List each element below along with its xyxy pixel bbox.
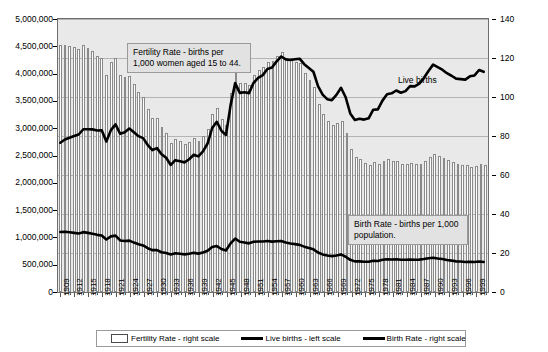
x-axis-tick-label: 1993 [451,278,459,296]
right-axis-tickmark [492,97,496,98]
annotation-fertility-rate: Fertility Rate - births per 1,000 women … [127,43,251,73]
left-axis-tick-label: 2,500,000 [15,151,53,160]
x-axis-tick-label: 1987 [423,278,431,296]
right-axis-tickmark [492,136,496,137]
x-axis-tick-label: 1909 [63,278,71,296]
right-axis-tickmark [492,214,496,215]
left-axis-tick-label: 3,000,000 [15,124,53,133]
left-axis-tick-label: 4,500,000 [15,42,53,51]
left-axis-tick-label: 2,000,000 [15,178,53,187]
right-axis-tick-label: 140 [500,15,514,24]
right-axis-tickmark [492,58,496,59]
x-axis-tick-label: 1930 [160,278,168,296]
x-axis-tick-label: 1945 [229,278,237,296]
x-axis-tick-label: 1939 [201,278,209,296]
x-axis-tick-label: 1972 [354,278,362,296]
legend-label: Fertility Rate - right scale [131,334,219,343]
x-axis-tick-label: 1969 [340,278,348,296]
legend-item-live-births: Live births - left scale [241,334,340,343]
right-axis-tick-label: 20 [500,249,509,258]
x-axis-tick-label: 1966 [326,278,334,296]
legend-item-fertility-rate: Fertility Rate - right scale [111,334,219,343]
x-axis-tick-label: 1957 [284,278,292,296]
left-axis-tick-label: 500,000 [22,260,53,269]
line-series-layer [58,19,488,292]
x-axis-tick-label: 1990 [437,278,445,296]
legend-label: Live births - left scale [265,334,340,343]
right-axis-tick-label: 100 [500,93,514,102]
x-axis-tick-label: 1921 [118,278,126,296]
x-axis-tick-label: 1978 [382,278,390,296]
left-axis-tick-label: 4,000,000 [15,69,53,78]
x-axis-tick-label: 1951 [257,278,265,296]
x-axis-tick-label: 1999 [479,278,487,296]
right-axis-tickmark [492,253,496,254]
right-axis-tick-label: 40 [500,210,509,219]
left-axis-tick-label: 5,000,000 [15,15,53,24]
right-axis-tick-label: 120 [500,54,514,63]
x-axis-tick-label: 1918 [104,278,112,296]
right-axis-tick-label: 60 [500,171,509,180]
x-axis-tick-label: 1924 [132,278,140,296]
legend-item-birth-rate: Birth Rate - right scale [363,334,466,343]
right-axis-tick-label: 0 [500,288,505,297]
x-axis-tick-label: 1933 [173,278,181,296]
x-axis-tick-label: 1927 [146,278,154,296]
left-axis-tick-label: 3,500,000 [15,96,53,105]
right-axis-tickmark [492,19,496,20]
legend-label: Birth Rate - right scale [387,334,466,343]
x-axis-tick-label: 1948 [243,278,251,296]
x-axis-tick-label: 1942 [215,278,223,296]
right-axis-tickmark [492,175,496,176]
plot-area [57,18,489,293]
annotation-birth-rate: Birth Rate - births per 1,000 population… [348,215,468,245]
legend-swatch-line-icon [363,337,385,340]
legend-swatch-line-icon [241,337,263,340]
x-axis-tick-label: 1981 [395,278,403,296]
x-axis-tick-label: 1984 [409,278,417,296]
x-axis-tick-label: 1996 [465,278,473,296]
x-axis-tick-label: 1960 [298,278,306,296]
x-axis-tick-label: 1954 [271,278,279,296]
right-axis-tickmark [492,292,496,293]
annotation-live-births: Live births [398,75,437,85]
x-axis-tick-label: 1975 [368,278,376,296]
x-axis-tick-label: 1936 [187,278,195,296]
right-axis-tick-label: 80 [500,132,509,141]
left-axis-tick-label: 1,500,000 [15,206,53,215]
x-axis-tick-label: 1912 [76,278,84,296]
x-axis-tick-label: 1915 [90,278,98,296]
chart-root: 0500,0001,000,0001,500,0002,000,0002,500… [0,0,548,352]
left-axis-tick-label: 1,000,000 [15,233,53,242]
x-axis-tick-label: 1963 [312,278,320,296]
line-live-births-left-scale [60,57,483,165]
legend-swatch-box-icon [111,334,128,343]
chart-legend: Fertility Rate - right scale Live births… [96,330,466,347]
